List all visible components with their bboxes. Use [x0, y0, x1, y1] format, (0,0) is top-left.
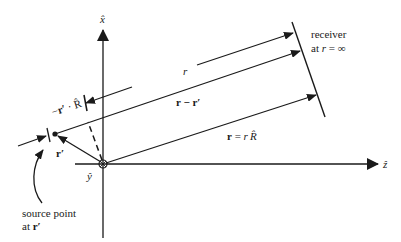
y-axis-label: ŷ: [86, 170, 92, 182]
rprime-label: r′: [56, 147, 64, 159]
source-point-dot: [52, 131, 57, 136]
r-vector-arrow: r = rR̂: [106, 95, 316, 163]
projection-start-tick: [47, 128, 50, 142]
perpendicular-dashed-line: [88, 122, 102, 160]
origin-y-axis-symbol: ŷ: [86, 160, 107, 182]
z-axis: ẑ: [75, 158, 388, 170]
receiver-location-label: at r = ∞: [311, 42, 346, 54]
x-axis: x̂: [99, 13, 105, 238]
r-minus-rprime-arrow: r − r′: [55, 51, 300, 134]
z-axis-label: ẑ: [382, 158, 388, 170]
receiver-label: receiver: [311, 28, 347, 40]
projection-arrow: −r′ · R̂: [18, 97, 83, 146]
projection-label: −r′ · R̂: [50, 97, 84, 118]
r-vector-label: r = rR̂: [227, 130, 257, 142]
r-distance-arrow: r: [86, 33, 293, 103]
scattering-geometry-diagram: x̂ ẑ ŷ receiver at r = ∞ r r − r′ r = rR…: [0, 0, 401, 242]
source-point-location-label: at r′: [22, 220, 41, 232]
diagram-canvas: x̂ ẑ ŷ receiver at r = ∞ r r − r′ r = rR…: [0, 0, 401, 242]
source-pointer-curved-arrow: [34, 150, 43, 203]
r-minus-rprime-label: r − r′: [176, 96, 200, 108]
r-distance-label: r: [183, 65, 188, 77]
x-axis-label: x̂: [99, 13, 105, 25]
source-point-label: source point: [22, 207, 76, 219]
